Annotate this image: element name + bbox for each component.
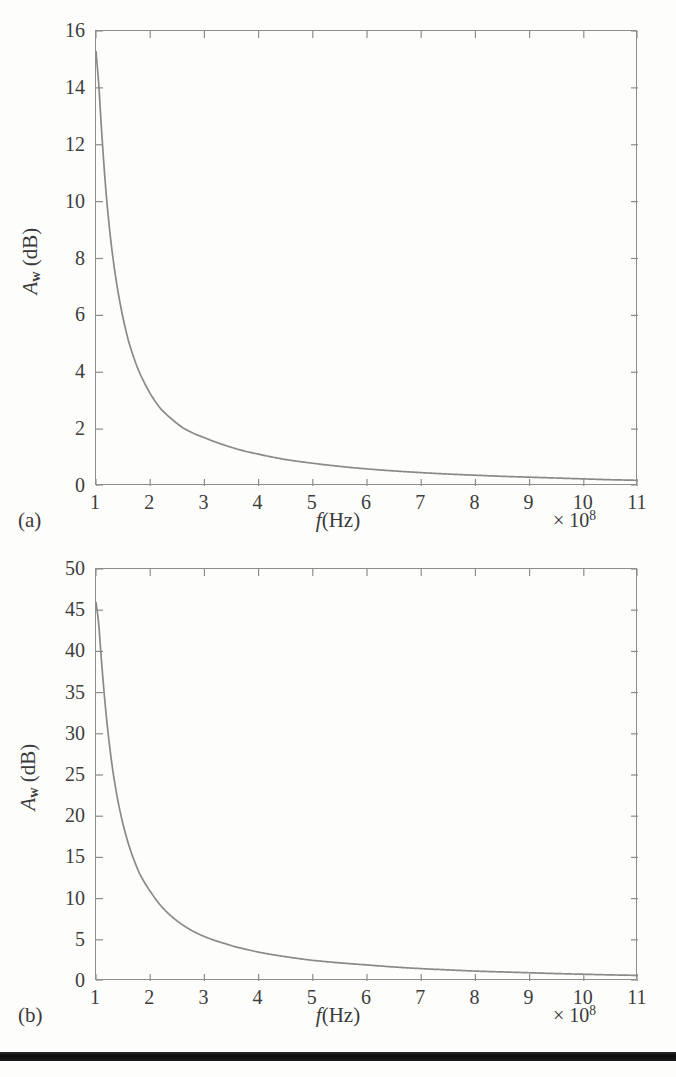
curve-canvas-b (96, 569, 638, 981)
y-axis-title-unit-a: (dB) (18, 228, 42, 272)
y-tick-label: 12 (33, 134, 85, 154)
y-tick-label: 35 (33, 682, 85, 702)
y-tick-label: 10 (33, 888, 85, 908)
figure-container: 0246810121416 1234567891011 Aw (dB) f(Hz… (0, 0, 676, 1077)
x-axis-exponent-power-b: 8 (589, 1003, 596, 1018)
panel-letter-b: (b) (18, 1003, 43, 1028)
y-axis-title-b: Aw (dB) (16, 722, 42, 832)
x-axis-exponent-b: × 108 (553, 1003, 596, 1027)
page-edge-bar (0, 1052, 676, 1061)
panel-a: 0246810121416 1234567891011 Aw (dB) f(Hz… (0, 0, 676, 538)
x-axis-exponent-prefix-a: × 10 (553, 509, 589, 531)
y-tick-label: 16 (33, 20, 85, 40)
x-axis-title-unit-b: (Hz) (322, 1003, 360, 1027)
y-tick-label: 14 (33, 77, 85, 97)
y-axis-title-symbol-a: A (18, 282, 42, 295)
page-edge-bar-inner (0, 1052, 676, 1061)
y-axis-title-subscript-a: w (27, 271, 43, 281)
y-tick-label: 15 (33, 846, 85, 866)
y-tick-label: 4 (33, 361, 85, 381)
plot-frame-b (95, 568, 637, 980)
y-tick-label: 40 (33, 640, 85, 660)
y-axis-title-subscript-b: w (25, 787, 41, 797)
y-tick-label: 2 (33, 418, 85, 438)
x-axis-title-unit-a: (Hz) (322, 508, 360, 532)
plot-frame-a (95, 30, 637, 485)
curve-canvas-a (96, 31, 638, 486)
y-tick-label: 5 (33, 929, 85, 949)
y-tick-label: 45 (33, 599, 85, 619)
x-axis-exponent-power-a: 8 (589, 508, 596, 523)
y-axis-title-a: Aw (dB) (18, 206, 44, 316)
panel-b: 05101520253035404550 1234567891011 Aw (d… (0, 538, 676, 1038)
y-axis-title-unit-b: (dB) (16, 744, 40, 788)
x-axis-exponent-a: × 108 (553, 508, 596, 532)
x-axis-exponent-prefix-b: × 10 (553, 1004, 589, 1026)
y-tick-label: 50 (33, 558, 85, 578)
panel-letter-a: (a) (18, 508, 41, 533)
y-axis-title-symbol-b: A (16, 798, 40, 811)
